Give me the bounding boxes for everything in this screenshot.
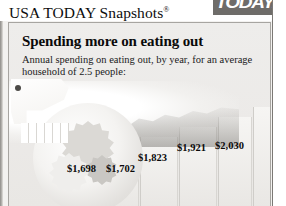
data-label-4: $1,921: [177, 142, 206, 153]
accent-dot-icon: [15, 85, 21, 91]
data-label-5: $2,030: [215, 140, 244, 151]
bar-2: [140, 137, 178, 206]
page-right-rule: [272, 0, 273, 206]
data-label-2: $1,702: [106, 163, 135, 174]
snapshot-panel: Spending more on eating out Annual spend…: [8, 22, 271, 206]
usa-today-logo-text: TODAY.: [213, 0, 272, 14]
masthead-title-text: USA TODAY Snapshots: [9, 4, 163, 21]
masthead: USA TODAY Snapshots® TODAY.: [0, 0, 272, 21]
registered-mark-icon: ®: [163, 5, 169, 14]
page-right-margin: [272, 0, 286, 206]
fork-tines: [21, 123, 69, 143]
bar-5: [253, 107, 271, 206]
snapshot-page: USA TODAY Snapshots® TODAY. Spending mor…: [0, 0, 286, 206]
data-label-3: $1,823: [138, 152, 167, 163]
chart-subtitle: Annual spending on eating out, by year, …: [22, 54, 254, 79]
chart-title: Spending more on eating out: [22, 32, 203, 50]
page-left-edge: [0, 0, 3, 206]
usa-today-logo: TODAY.: [213, 0, 272, 15]
data-label-1: $1,698: [67, 163, 96, 174]
masthead-title: USA TODAY Snapshots®: [9, 0, 170, 23]
chart-artwork: $1,698 $1,702 $1,823 $1,921 $2,030: [9, 79, 271, 206]
